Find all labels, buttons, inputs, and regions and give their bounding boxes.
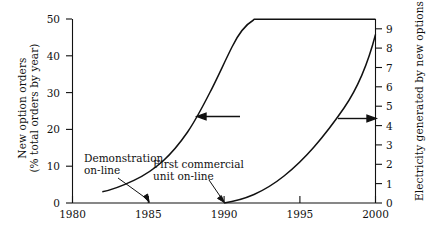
y-ticks-right <box>376 29 382 203</box>
annotation-demonstration-on-line: Demonstration on-line <box>84 152 163 176</box>
y-tick-label-left-50: 50 <box>38 13 60 25</box>
x-tick-label-1995: 1995 <box>280 208 320 220</box>
x-tick-label-1990: 1990 <box>204 208 244 220</box>
y-tick-label-right-7: 7 <box>386 62 408 74</box>
y-tick-label-right-2: 2 <box>386 158 408 170</box>
y-tick-label-left-20: 20 <box>38 123 60 135</box>
annotation-first-commercial-line1: First commercial <box>153 158 244 170</box>
x-tick-label-1985: 1985 <box>128 208 168 220</box>
y-tick-label-right-9: 9 <box>386 23 408 35</box>
annotation-demonstration-line1: Demonstration <box>84 152 163 164</box>
y-tick-label-right-3: 3 <box>386 139 408 151</box>
y-tick-label-right-4: 4 <box>386 120 408 132</box>
x-tick-label-2000: 2000 <box>356 208 396 220</box>
chart-plot-area <box>0 0 433 243</box>
y-ticks-left <box>66 19 72 203</box>
y-tick-label-left-40: 40 <box>38 50 60 62</box>
left-axis-arrow-icon <box>197 113 240 120</box>
y-tick-label-left-30: 30 <box>38 87 60 99</box>
y-tick-label-right-8: 8 <box>386 42 408 54</box>
y-axis-left-title: New option orders (% total orders by yea… <box>16 28 40 188</box>
y-tick-label-right-6: 6 <box>386 81 408 93</box>
figure-container: New option orders (% total orders by yea… <box>0 0 433 243</box>
annotation-first-commercial-line2: unit on-line <box>153 170 244 182</box>
y-tick-label-left-10: 10 <box>38 160 60 172</box>
y-tick-label-right-5: 5 <box>386 100 408 112</box>
right-axis-arrow-icon <box>338 115 376 122</box>
y-axis-left-title-line1: New option orders <box>16 28 28 188</box>
x-tick-label-1980: 1980 <box>53 208 93 220</box>
annotation-first-commercial-unit-on-line: First commercial unit on-line <box>153 158 244 182</box>
annotation-demonstration-line2: on-line <box>84 164 163 176</box>
annotation-leader-first-commercial <box>209 180 224 202</box>
annotation-leader-demonstration <box>118 178 149 202</box>
y-axis-right-title: Electricity generated by new options (%) <box>413 11 425 201</box>
y-tick-label-right-1: 1 <box>386 178 408 190</box>
